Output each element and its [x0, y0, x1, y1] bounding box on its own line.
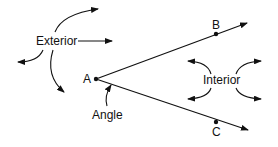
point-a — [94, 77, 98, 81]
exterior-arrow-up — [55, 9, 98, 32]
exterior-arrow-down — [51, 50, 64, 92]
label-point-b: B — [212, 19, 220, 31]
angle-arrow — [106, 85, 111, 106]
ray-ab — [96, 23, 247, 79]
label-point-c: C — [212, 126, 221, 138]
label-angle: Angle — [92, 109, 123, 121]
label-interior: Interior — [203, 74, 240, 86]
exterior-arrow-left — [18, 50, 43, 62]
interior-arrow-lower-left — [188, 88, 211, 99]
point-b — [214, 32, 218, 36]
point-c — [214, 120, 218, 124]
interior-arrow-lower-right — [236, 88, 261, 99]
label-exterior: Exterior — [36, 35, 77, 47]
label-point-a: A — [83, 73, 91, 85]
angle-diagram: Exterior Interior Angle A B C — [0, 0, 278, 147]
